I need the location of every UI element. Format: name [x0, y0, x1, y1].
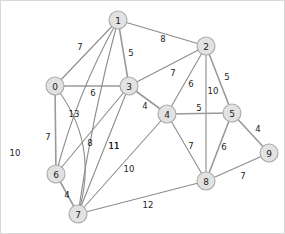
graph-canvas: 767108513117651048115107644127 012345678…: [1, 1, 285, 234]
graph-edge: [55, 86, 56, 174]
graph-edge: [78, 86, 129, 214]
edge-weight-label: 8: [160, 34, 165, 44]
edge-weight-label: 10: [208, 86, 219, 96]
edge-weight-label: 8: [87, 138, 92, 148]
edge-weight-label: 10: [10, 148, 21, 158]
node-label: 9: [266, 149, 272, 159]
node-label: 8: [203, 177, 209, 187]
edge-weight-label: 13: [69, 109, 80, 119]
graph-edge: [56, 86, 129, 174]
graph-node: 4: [158, 105, 176, 123]
node-label: 2: [203, 42, 209, 52]
node-label: 5: [229, 109, 235, 119]
graph-node: 6: [47, 165, 65, 183]
edge-weight-label: 5: [128, 48, 133, 58]
graph-edge: [167, 114, 206, 181]
node-label: 0: [52, 82, 58, 92]
graph-node: 7: [69, 205, 87, 223]
graph-node: 0: [46, 77, 64, 95]
edge-weight-label: 7: [240, 171, 245, 181]
edge-weight-label: 4: [255, 124, 260, 134]
graph-edge: [78, 114, 167, 214]
edge-weight-label: 6: [221, 142, 226, 152]
edge-weight-label: 11: [109, 141, 120, 151]
graph-edge: [167, 113, 232, 114]
graph-node: 1: [109, 11, 127, 29]
edge-weight-label: 5: [224, 72, 229, 82]
edge-weight-label: 7: [77, 42, 82, 52]
node-label: 4: [164, 110, 170, 120]
edge-weight-label: 6: [188, 79, 193, 89]
edge-weight-label: 4: [142, 101, 147, 111]
edge-weight-label: 7: [170, 68, 175, 78]
graph-node: 8: [197, 172, 215, 190]
graph-node: 9: [260, 144, 278, 162]
edge-weight-label: 7: [188, 141, 193, 151]
edge-weight-label: 6: [90, 88, 95, 98]
edge-weight-label: 7: [45, 132, 50, 142]
edge-weight-label: 5: [196, 103, 201, 113]
graph-edge: [56, 20, 118, 174]
node-label: 3: [126, 82, 132, 92]
edge-labels-layer: 767108513117651048115107644127: [10, 34, 261, 210]
graph-edge: [55, 20, 118, 86]
node-label: 1: [115, 16, 121, 26]
edge-weight-label: 12: [143, 200, 154, 210]
graph-node: 2: [197, 37, 215, 55]
edge-weight-label: 10: [124, 164, 135, 174]
graph-figure: 767108513117651048115107644127 012345678…: [0, 0, 285, 234]
graph-node: 5: [223, 104, 241, 122]
node-label: 7: [75, 210, 81, 220]
graph-node: 3: [120, 77, 138, 95]
node-label: 6: [53, 170, 59, 180]
edge-weight-label: 4: [64, 190, 69, 200]
